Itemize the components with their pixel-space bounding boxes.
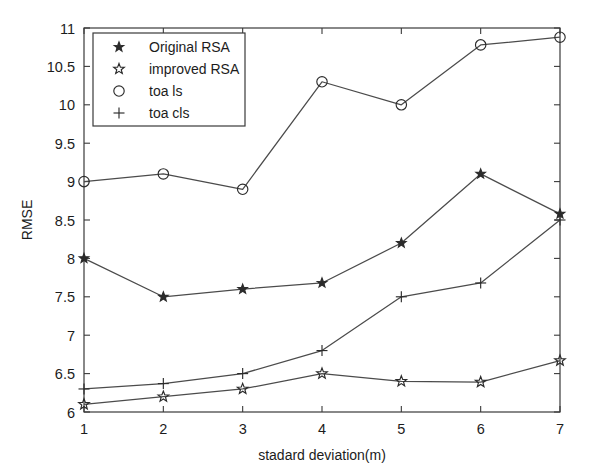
rmse-line-chart: 66.577.588.599.51010.5111234567stadard d… bbox=[0, 0, 597, 471]
x-tick-label: 2 bbox=[159, 421, 167, 437]
legend-entry-label: toa cls bbox=[149, 105, 189, 121]
y-tick-label: 7.5 bbox=[55, 289, 75, 305]
x-tick-label: 6 bbox=[477, 421, 485, 437]
legend-entry-label: Original RSA bbox=[149, 39, 231, 55]
chart-background bbox=[0, 0, 597, 471]
x-tick-label: 3 bbox=[239, 421, 247, 437]
y-tick-label: 9 bbox=[67, 174, 75, 190]
y-tick-label: 6 bbox=[67, 405, 75, 421]
y-tick-label: 11 bbox=[60, 21, 75, 37]
x-tick-label: 5 bbox=[397, 421, 405, 437]
chart-figure: 66.577.588.599.51010.5111234567stadard d… bbox=[0, 0, 597, 471]
y-axis-title: RMSE bbox=[19, 200, 35, 240]
y-tick-label: 8.5 bbox=[55, 213, 75, 229]
y-tick-label: 9.5 bbox=[55, 136, 75, 152]
y-tick-label: 7 bbox=[67, 328, 75, 344]
x-tick-label: 4 bbox=[318, 421, 326, 437]
chart-legend: Original RSAimproved RSAtoa lstoa cls bbox=[93, 33, 245, 126]
x-tick-label: 1 bbox=[80, 421, 88, 437]
y-tick-label: 10 bbox=[59, 97, 75, 113]
y-tick-label: 8 bbox=[67, 251, 75, 267]
y-tick-label: 6.5 bbox=[55, 366, 75, 382]
legend-entry-label: toa ls bbox=[149, 83, 182, 99]
x-axis-title: stadard deviation(m) bbox=[258, 447, 386, 463]
y-tick-label: 10.5 bbox=[47, 59, 75, 75]
x-tick-label: 7 bbox=[556, 421, 564, 437]
legend-entry-label: improved RSA bbox=[149, 61, 240, 77]
